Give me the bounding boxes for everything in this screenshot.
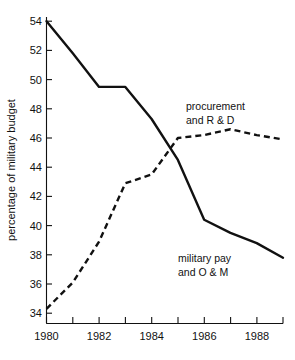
annotation-military-pay-line2: and O & M <box>178 266 228 278</box>
x-tick-label: 1988 <box>245 330 269 342</box>
x-tick-label: 1986 <box>192 330 216 342</box>
y-tick-labels: 54 52 50 48 46 44 42 40 38 36 34 <box>30 15 42 319</box>
y-tick-label: 48 <box>30 103 42 115</box>
x-tick-label: 1984 <box>139 330 163 342</box>
y-tick-label: 36 <box>30 278 42 290</box>
annotation-procurement: procurement and R & D <box>186 100 245 126</box>
y-axis-title: percentage of military budget <box>5 99 17 241</box>
annotation-military-pay: military pay and O & M <box>178 252 232 278</box>
x-tick-label: 1982 <box>87 330 111 342</box>
annotation-military-pay-line1: military pay <box>178 252 232 264</box>
y-tick-label: 40 <box>30 220 42 232</box>
x-tick-label: 1980 <box>34 330 58 342</box>
series-line-military-pay <box>47 21 284 258</box>
y-tick-label: 46 <box>30 132 42 144</box>
y-tick-label: 50 <box>30 74 42 86</box>
annotation-procurement-line1: procurement <box>186 100 245 112</box>
y-tick-label: 34 <box>30 307 42 319</box>
y-tick-label: 52 <box>30 44 42 56</box>
y-tick-label: 44 <box>30 161 42 173</box>
series-line-procurement <box>47 129 284 309</box>
x-tick-labels: 1980 1982 1984 1986 1988 <box>34 330 269 342</box>
y-axis-ticks <box>47 21 53 313</box>
line-chart: 54 52 50 48 46 44 42 40 38 36 34 <box>0 0 295 360</box>
y-tick-label: 54 <box>30 15 42 27</box>
y-tick-label: 38 <box>30 249 42 261</box>
x-axis-ticks <box>47 317 284 324</box>
chart-container: 54 52 50 48 46 44 42 40 38 36 34 <box>0 0 295 360</box>
y-tick-label: 42 <box>30 190 42 202</box>
annotation-procurement-line2: and R & D <box>186 114 235 126</box>
